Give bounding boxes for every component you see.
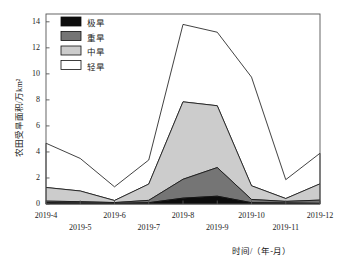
legend-swatch-中旱 xyxy=(61,46,81,55)
x-tick-label: 2019-11 xyxy=(262,223,310,232)
x-tick-label: 2019-4 xyxy=(22,211,70,220)
y-tick-label: 12 xyxy=(22,43,40,52)
x-axis-title: 时间/（年-月） xyxy=(232,244,291,256)
legend-label-轻旱: 轻旱 xyxy=(87,60,105,72)
y-tick-label: 10 xyxy=(22,69,40,78)
legend-swatch-group xyxy=(61,17,81,70)
x-tick-label: 2019-9 xyxy=(193,223,241,232)
x-tick-label: 2019-8 xyxy=(159,211,207,220)
x-tick-label: 2019-10 xyxy=(228,211,276,220)
legend-swatch-轻旱 xyxy=(61,61,81,70)
legend-swatch-极旱 xyxy=(61,17,81,26)
x-tick-label: 2019-6 xyxy=(91,211,139,220)
y-tick-label: 8 xyxy=(22,95,40,104)
y-tick-label: 0 xyxy=(22,199,40,208)
y-tick-label: 2 xyxy=(22,173,40,182)
y-tick-label: 14 xyxy=(22,17,40,26)
x-tick-label: 2019-7 xyxy=(125,223,173,232)
drought-area-stacked-chart: 农田受旱面积/万km² 02468101214 2019-42019-52019… xyxy=(0,0,339,265)
legend-label-极旱: 极旱 xyxy=(87,16,105,28)
legend-swatch-重旱 xyxy=(61,32,81,41)
x-tick-label: 2019-5 xyxy=(56,223,104,232)
y-tick-label: 6 xyxy=(22,121,40,130)
legend-label-中旱: 中旱 xyxy=(87,45,105,57)
y-tick-label: 4 xyxy=(22,147,40,156)
x-tick-label: 2019-12 xyxy=(296,211,339,220)
legend-label-重旱: 重旱 xyxy=(87,31,105,43)
